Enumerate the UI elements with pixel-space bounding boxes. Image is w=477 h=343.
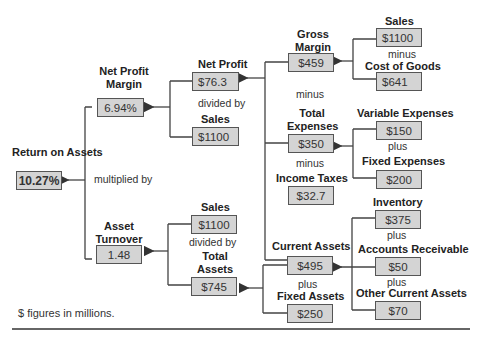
- total-expenses-box: $350: [288, 134, 334, 153]
- current-assets-box: $495: [287, 256, 333, 275]
- accounts-receivable-label: Accounts Receivable: [358, 243, 469, 256]
- plus-operator-ta: plus: [298, 278, 317, 290]
- footnote: $ figures in millions.: [18, 307, 115, 319]
- income-taxes-box: $32.7: [288, 186, 334, 205]
- income-taxes-label: Income Taxes: [276, 172, 348, 185]
- other-current-assets-label: Other Current Assets: [356, 287, 467, 300]
- fixed-assets-label: Fixed Assets: [277, 290, 344, 303]
- multiplied-by-operator: multiplied by: [94, 173, 152, 185]
- at-sales-label: Sales: [201, 201, 230, 214]
- minus-operator-1: minus: [296, 88, 324, 100]
- minus-operator-gm: minus: [388, 48, 416, 60]
- fixed-assets-box: $250: [287, 304, 333, 323]
- inventory-box: $375: [375, 210, 421, 229]
- divided-by-operator: divided by: [198, 97, 245, 109]
- net-profit-label: Net Profit: [198, 58, 248, 71]
- npm-sales-label: Sales: [201, 113, 230, 126]
- variable-expenses-label: Variable Expenses: [357, 107, 454, 120]
- gross-margin-box: $459: [288, 53, 334, 72]
- plus-operator-ca-1: plus: [387, 229, 406, 241]
- return-on-assets-label: Return on Assets: [12, 146, 103, 159]
- fixed-expenses-label: Fixed Expenses: [362, 155, 445, 168]
- current-assets-label: Current Assets: [272, 240, 350, 253]
- cost-of-goods-box: $641: [376, 72, 422, 91]
- asset-turnover-box: 1.48: [96, 245, 142, 264]
- plus-operator-te: plus: [388, 140, 407, 152]
- bottom-divider: [12, 328, 470, 330]
- gm-sales-box: $1100: [376, 28, 422, 47]
- return-on-assets-box: 10.27%: [16, 171, 62, 190]
- npm-sales-box: $1100: [192, 127, 239, 146]
- gross-margin-label: Gross Margin: [290, 28, 336, 54]
- net-profit-margin-box: 6.94%: [97, 98, 144, 117]
- asset-turnover-label: Asset Turnover: [95, 220, 143, 246]
- net-profit-margin-label: Net Profit Margin: [96, 65, 152, 91]
- fixed-expenses-box: $200: [376, 170, 422, 189]
- net-profit-box: $76.3: [192, 72, 239, 91]
- other-current-assets-box: $70: [375, 301, 421, 320]
- divided-by-operator-at: divided by: [189, 236, 236, 248]
- total-assets-box: $745: [191, 277, 237, 296]
- accounts-receivable-box: $50: [375, 257, 421, 276]
- minus-operator-2: minus: [296, 157, 324, 169]
- total-assets-label: Total Assets: [195, 250, 235, 276]
- at-sales-box: $1100: [191, 215, 237, 234]
- gm-sales-label: Sales: [385, 15, 414, 28]
- total-expenses-label: Total Expenses: [287, 107, 337, 133]
- variable-expenses-box: $150: [376, 121, 422, 140]
- inventory-label: Inventory: [373, 196, 423, 209]
